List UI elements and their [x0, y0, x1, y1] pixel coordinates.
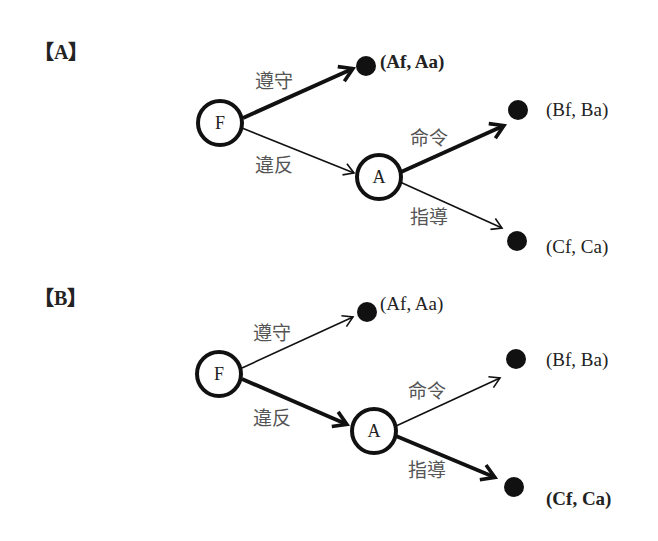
edge-label-comply: 遵守 — [255, 70, 293, 92]
terminal-node-bf — [506, 349, 526, 369]
terminal-node-cf — [504, 477, 524, 497]
node-label-f: F — [214, 364, 224, 384]
game-tree-diagram: 【A】 遵守 違反 命令 指導 F A (Af, Aa) (Bf, Ba) (C… — [0, 0, 658, 541]
node-label-a: A — [368, 421, 381, 441]
terminal-node-cf — [507, 231, 527, 251]
panel-b: 【B】 遵守 違反 命令 指導 F A (Af, Aa) (Bf, Ba) (C… — [34, 287, 611, 510]
panel-a: 【A】 遵守 違反 命令 指導 F A (Af, Aa) (Bf, Ba) (C… — [34, 41, 608, 258]
payoff-cf: (Cf, Ca) — [546, 488, 611, 510]
panel-label-a: 【A】 — [34, 41, 88, 63]
payoff-bf: (Bf, Ba) — [546, 349, 608, 371]
edge-label-guidance: 指導 — [410, 206, 448, 228]
edge-label-violate: 違反 — [255, 154, 293, 176]
panel-label-b: 【B】 — [34, 287, 87, 309]
payoff-af: (Af, Aa) — [380, 51, 444, 73]
edge-label-violate: 違反 — [253, 407, 291, 429]
edge-label-order: 命令 — [408, 380, 446, 402]
edge-label-guidance: 指導 — [408, 459, 446, 481]
terminal-node-bf — [508, 100, 528, 120]
payoff-af: (Af, Aa) — [380, 293, 443, 315]
payoff-cf: (Cf, Ca) — [546, 236, 608, 258]
edge-label-comply: 遵守 — [253, 322, 291, 344]
node-label-f: F — [215, 113, 225, 133]
node-label-a: A — [373, 167, 386, 187]
terminal-node-af — [357, 302, 377, 322]
terminal-node-af — [356, 56, 376, 76]
payoff-bf: (Bf, Ba) — [546, 99, 608, 121]
edge-label-order: 命令 — [410, 127, 448, 149]
